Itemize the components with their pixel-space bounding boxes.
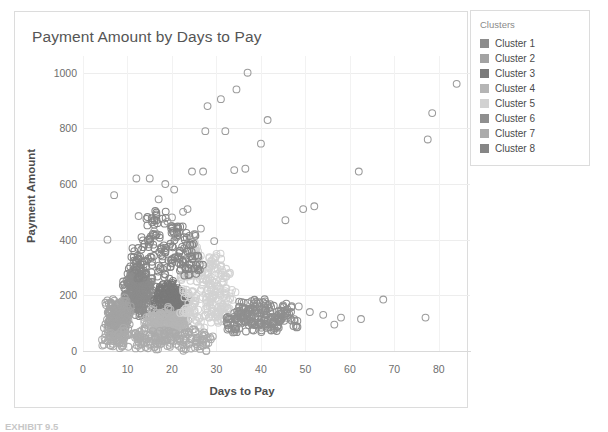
scatter-point-outlier (242, 165, 249, 172)
scatter-point-outlier (233, 86, 240, 93)
scatter-point-outlier (338, 314, 345, 321)
x-axis-title: Days to Pay (15, 385, 469, 397)
legend-swatch-icon (480, 144, 489, 153)
legend-item-label: Cluster 7 (495, 128, 535, 139)
x-tick-label: 60 (344, 363, 356, 375)
y-tick-label: 600 (59, 178, 77, 190)
scatter-point-outlier (218, 96, 225, 103)
x-axis-tick-labels: 01020304050607080 (15, 363, 469, 379)
x-tick-label: 0 (80, 363, 86, 375)
scatter-point-outlier (311, 203, 318, 210)
scatter-point-outlier (211, 238, 218, 245)
scatter-points (83, 56, 470, 351)
legend-item-label: Cluster 3 (495, 68, 535, 79)
scatter-point-outlier (453, 80, 460, 87)
scatter-point-outlier (282, 217, 289, 224)
x-tick-label: 30 (211, 363, 223, 375)
scatter-point-outlier (146, 175, 153, 182)
scatter-point-outlier (320, 311, 327, 318)
scatter-point-outlier (197, 225, 204, 232)
scatter-point-outlier (189, 168, 196, 175)
scatter-point-outlier (300, 206, 307, 213)
y-tick-label: 1000 (54, 67, 77, 79)
legend-item-label: Cluster 2 (495, 53, 535, 64)
scatter-point-outlier (171, 186, 178, 193)
scatter-point-outlier (135, 213, 142, 220)
scatter-point-outlier (111, 192, 118, 199)
scatter-point-outlier (231, 167, 238, 174)
legend-item[interactable]: Cluster 5 (480, 96, 584, 111)
scatter-point-outlier (244, 69, 251, 76)
legend-swatch-icon (480, 54, 489, 63)
legend-item[interactable]: Cluster 3 (480, 66, 584, 81)
y-tick-label: 800 (59, 122, 77, 134)
scatter-point-outlier (202, 128, 209, 135)
scatter-point-outlier (104, 236, 111, 243)
legend-item[interactable]: Cluster 4 (480, 81, 584, 96)
legend-item-label: Cluster 4 (495, 83, 535, 94)
legend-item[interactable]: Cluster 7 (480, 126, 584, 141)
y-axis-title: Payment Amount (25, 136, 37, 256)
scatter-point-outlier (162, 181, 169, 188)
scatter-point-outlier (331, 321, 338, 328)
scatter-point-outlier (380, 296, 387, 303)
exhibit-caption: EXHIBIT 9.5 (5, 421, 58, 432)
scatter-point-outlier (358, 316, 365, 323)
x-tick-label: 50 (300, 363, 312, 375)
y-tick-label: 400 (59, 234, 77, 246)
x-tick-label: 20 (166, 363, 178, 375)
x-tick-label: 80 (433, 363, 445, 375)
scatter-chart-card: Payment Amount by Days to Pay 0200400600… (14, 11, 468, 408)
legend-swatch-icon (480, 114, 489, 123)
scatter-point-outlier (295, 303, 302, 310)
legend-item[interactable]: Cluster 6 (480, 111, 584, 126)
scatter-point-outlier (429, 110, 436, 117)
x-tick-label: 70 (389, 363, 401, 375)
scatter-point-outlier (306, 309, 313, 316)
scatter-point-outlier (133, 175, 140, 182)
legend-swatch-icon (480, 84, 489, 93)
legend-title: Clusters (480, 19, 515, 30)
y-tick-label: 200 (59, 289, 77, 301)
x-tick-label: 10 (122, 363, 134, 375)
scatter-point-outlier (169, 214, 176, 221)
scatter-point-outlier (355, 168, 362, 175)
scatter-point-outlier (204, 103, 211, 110)
legend-swatch-icon (480, 39, 489, 48)
scatter-point-outlier (424, 136, 431, 143)
scatter-point-outlier (258, 140, 265, 147)
legend-swatch-icon (480, 69, 489, 78)
legend-item-label: Cluster 6 (495, 113, 535, 124)
legend-swatch-icon (480, 129, 489, 138)
legend-item[interactable]: Cluster 8 (480, 141, 584, 156)
x-tick-label: 40 (255, 363, 267, 375)
legend-swatch-icon (480, 99, 489, 108)
legend-item-list: Cluster 1Cluster 2Cluster 3Cluster 4Clus… (480, 36, 584, 156)
plot-area (83, 56, 470, 351)
y-axis-tick-labels: 02004006008001000 (33, 12, 77, 409)
scatter-point-outlier (222, 128, 229, 135)
legend-item-label: Cluster 5 (495, 98, 535, 109)
y-tick-label: 0 (71, 345, 77, 357)
scatter-point-outlier (264, 117, 271, 124)
legend-item-label: Cluster 8 (495, 143, 535, 154)
scatter-point-outlier (155, 196, 162, 203)
legend-item[interactable]: Cluster 2 (480, 51, 584, 66)
legend-card: Clusters Cluster 1Cluster 2Cluster 3Clus… (470, 10, 590, 166)
scatter-point-outlier (200, 168, 207, 175)
scatter-point-outlier (422, 314, 429, 321)
legend-item-label: Cluster 1 (495, 38, 535, 49)
legend-item[interactable]: Cluster 1 (480, 36, 584, 51)
